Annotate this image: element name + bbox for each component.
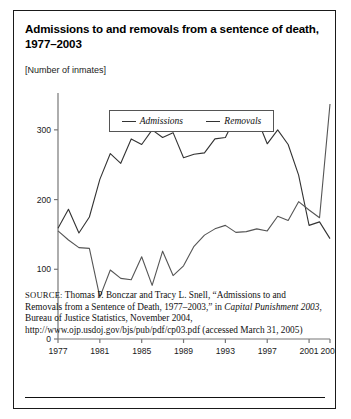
legend-label-admissions: Admissions	[140, 116, 183, 126]
x-axis-tick-label: 1993	[216, 346, 235, 356]
source-label: SOURCE:	[25, 290, 63, 300]
y-axis-tick-label: 100	[37, 264, 52, 274]
x-axis-tick-label: 1977	[48, 346, 67, 356]
legend-line-swatch-admissions	[122, 121, 136, 122]
bottom-divider	[25, 397, 325, 398]
legend-item-admissions: Admissions	[122, 116, 183, 126]
legend-line-swatch-removals	[206, 121, 220, 122]
x-axis-tick-label: 2001	[300, 346, 319, 356]
chart-legend: Admissions Removals	[109, 110, 274, 132]
legend-label-removals: Removals	[224, 116, 261, 126]
y-axis-tick-label: 200	[37, 195, 52, 205]
x-axis-tick-label: 1985	[132, 346, 151, 356]
figure-frame: Admissions to and removals from a senten…	[13, 10, 336, 409]
x-axis-tick-label: 1981	[90, 346, 109, 356]
series-line-admissions	[58, 116, 330, 239]
page-title: Admissions to and removals from a senten…	[25, 22, 325, 51]
source-italic-title: Capital Punishment 2003	[224, 302, 319, 312]
figure-subtitle: [Number of inmates]	[25, 65, 106, 75]
series-line-removals	[58, 104, 330, 297]
x-axis-tick-label: 1997	[258, 346, 277, 356]
x-axis-tick-label: 1989	[174, 346, 193, 356]
y-axis-tick-label: 300	[37, 125, 52, 135]
x-axis-tick-label: 2003	[320, 346, 335, 356]
source-note: SOURCE: Thomas P. Bonczar and Tracy L. S…	[25, 290, 325, 336]
legend-item-removals: Removals	[206, 116, 261, 126]
figure-inner: Admissions to and removals from a senten…	[14, 11, 335, 408]
